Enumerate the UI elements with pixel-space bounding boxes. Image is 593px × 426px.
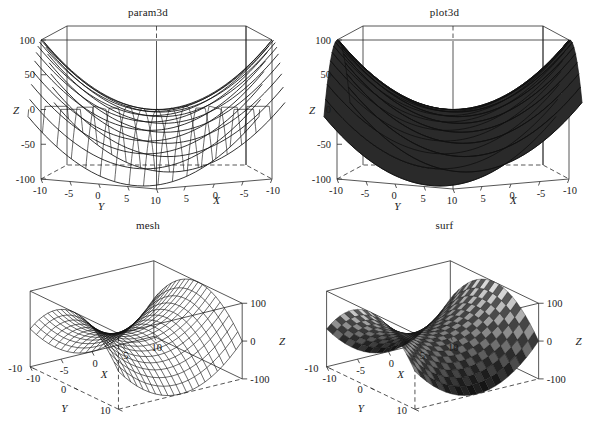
svg-text:Z: Z — [309, 104, 316, 116]
svg-text:X: X — [212, 194, 221, 206]
panel-param3d: param3d 100500-50-100Z-10-5051050-5-10YX — [0, 0, 296, 213]
svg-text:10: 10 — [100, 405, 111, 416]
plot-param3d: 100500-50-100Z-10-5051050-5-10YX — [0, 0, 296, 213]
svg-text:10: 10 — [448, 342, 459, 353]
svg-text:10: 10 — [152, 342, 163, 353]
svg-text:-5: -5 — [65, 188, 74, 199]
panel-mesh: mesh 1000-100Z-10-50510X100-10Y — [0, 213, 296, 426]
svg-text:5: 5 — [123, 350, 128, 361]
svg-text:-100: -100 — [16, 174, 35, 185]
svg-text:10: 10 — [396, 405, 407, 416]
svg-text:-5: -5 — [60, 365, 69, 376]
panel-title-plot3d: plot3d — [296, 6, 593, 18]
panel-plot3d: plot3d 100500-50-100Z-10-5051050-5-10YX — [296, 0, 593, 213]
svg-text:5: 5 — [124, 193, 129, 204]
svg-text:-100: -100 — [547, 374, 566, 385]
svg-text:5: 5 — [420, 193, 425, 204]
svg-text:-10: -10 — [323, 373, 337, 384]
svg-text:10: 10 — [150, 195, 161, 206]
svg-text:50: 50 — [25, 69, 36, 80]
svg-text:0: 0 — [92, 358, 97, 369]
svg-text:Z: Z — [279, 335, 286, 347]
svg-text:100: 100 — [547, 298, 563, 309]
svg-text:0: 0 — [61, 384, 66, 395]
svg-text:0: 0 — [389, 358, 394, 369]
svg-text:-5: -5 — [240, 188, 249, 199]
svg-text:0: 0 — [250, 336, 255, 347]
svg-text:0: 0 — [30, 104, 35, 115]
figure-grid: param3d 100500-50-100Z-10-5051050-5-10YX… — [0, 0, 593, 426]
panel-title-mesh: mesh — [0, 219, 296, 231]
plot-surf: 1000-100Z-10-50510X100-10Y — [296, 213, 593, 426]
panel-surf: surf 1000-100Z-10-50510X100-10Y — [296, 213, 593, 426]
svg-text:100: 100 — [315, 35, 331, 46]
plot-plot3d: 100500-50-100Z-10-5051050-5-10YX — [296, 0, 593, 213]
svg-text:5: 5 — [480, 193, 485, 204]
svg-text:100: 100 — [19, 35, 35, 46]
svg-text:-10: -10 — [33, 185, 47, 196]
svg-text:100: 100 — [250, 298, 266, 309]
svg-text:-5: -5 — [537, 188, 546, 199]
svg-text:0: 0 — [547, 336, 552, 347]
svg-text:-50: -50 — [317, 139, 331, 150]
svg-text:X: X — [509, 194, 518, 206]
svg-text:X: X — [396, 368, 405, 380]
svg-text:Z: Z — [13, 104, 20, 116]
svg-text:-5: -5 — [361, 188, 370, 199]
svg-text:-10: -10 — [8, 363, 22, 374]
svg-text:-10: -10 — [266, 185, 280, 196]
svg-text:-100: -100 — [250, 374, 269, 385]
svg-text:-10: -10 — [305, 363, 319, 374]
svg-text:-100: -100 — [312, 174, 331, 185]
svg-text:X: X — [100, 368, 109, 380]
svg-text:Z: Z — [576, 335, 583, 347]
svg-text:5: 5 — [420, 350, 425, 361]
plot-mesh: 1000-100Z-10-50510X100-10Y — [0, 213, 296, 426]
svg-text:-5: -5 — [356, 365, 365, 376]
svg-text:5: 5 — [184, 193, 189, 204]
svg-text:-10: -10 — [329, 185, 343, 196]
panel-title-param3d: param3d — [0, 6, 296, 18]
svg-text:Y: Y — [98, 200, 106, 212]
svg-text:0: 0 — [326, 104, 331, 115]
svg-text:Y: Y — [358, 402, 366, 414]
svg-text:0: 0 — [358, 384, 363, 395]
svg-text:-10: -10 — [563, 185, 577, 196]
svg-text:Y: Y — [61, 402, 69, 414]
svg-text:Y: Y — [394, 200, 402, 212]
panel-title-surf: surf — [296, 219, 593, 231]
svg-text:-10: -10 — [26, 373, 40, 384]
svg-text:10: 10 — [447, 195, 458, 206]
svg-text:50: 50 — [321, 69, 332, 80]
svg-text:-50: -50 — [21, 139, 35, 150]
